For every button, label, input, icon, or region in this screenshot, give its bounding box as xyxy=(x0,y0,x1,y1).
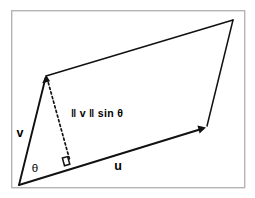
vector-v-label: v xyxy=(17,126,24,140)
angle-theta-label: θ xyxy=(32,162,38,174)
vector-u-label: u xyxy=(114,159,122,173)
parallelogram-diagram: v u θ ‖ v ‖ sin θ xyxy=(0,0,255,198)
figure-container: v u θ ‖ v ‖ sin θ xyxy=(0,0,255,198)
height-expression-label: ‖ v ‖ sin θ xyxy=(71,107,123,119)
figure-border xyxy=(12,11,245,188)
